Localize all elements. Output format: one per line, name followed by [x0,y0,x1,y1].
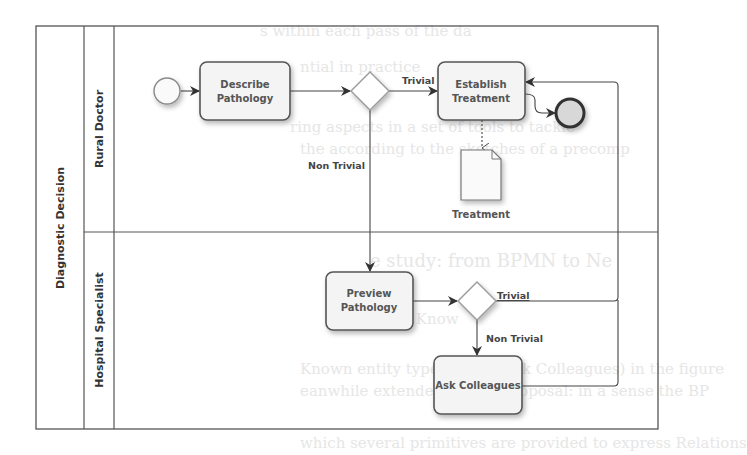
pool [36,26,658,429]
sequence-flows [181,82,618,386]
task-ask-colleagues[interactable]: Ask Colleagues [434,356,522,414]
task-label: Pathology [341,302,398,313]
flow-label-non-trivial: Non Trivial [308,160,365,171]
task-preview-pathology[interactable]: Preview Pathology [326,272,413,330]
start-event[interactable] [154,78,180,104]
lane-label-rural-doctor: Rural Doctor [93,89,106,168]
exclusive-gateway-2[interactable] [458,282,496,320]
lane-label-hospital-specialist: Hospital Specialist [93,272,106,388]
end-event[interactable] [556,99,584,127]
task-establish-treatment[interactable]: Establish Treatment [438,62,525,120]
pool-title: Diagnostic Decision [54,167,67,289]
task-describe-pathology[interactable]: Describe Pathology [200,62,290,120]
task-label: Establish [455,79,506,90]
exclusive-gateway-1[interactable] [351,72,389,110]
document-icon [461,150,501,200]
task-label: Ask Colleagues [435,380,520,391]
task-label: Preview [346,288,391,299]
flow-label-trivial: Trivial [402,75,435,86]
flow-establish-to-end [525,94,555,113]
task-label: Treatment [452,93,510,104]
flow-label-non-trivial: Non Trivial [486,333,543,344]
data-object-label: Treatment [452,209,510,220]
data-object-treatment[interactable]: Treatment [452,150,510,220]
flow-label-trivial: Trivial [497,290,530,301]
task-label: Pathology [217,93,274,104]
task-label: Describe [220,79,269,90]
